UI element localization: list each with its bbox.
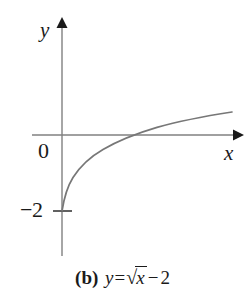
y-tick-label-neg2: −2 xyxy=(20,199,42,221)
figure-caption: (b) y=√x−2 xyxy=(0,266,246,289)
figure-container: y x 0 −2 (b) y=√x−2 xyxy=(0,0,246,298)
caption-label: (b) xyxy=(75,267,98,288)
caption-equals-sign: = xyxy=(114,267,127,288)
caption-minus-sign: − xyxy=(147,267,160,288)
origin-label: 0 xyxy=(38,140,49,162)
sqrt-curve xyxy=(62,112,232,211)
x-axis-label: x xyxy=(224,143,233,164)
radical-expression: √x xyxy=(126,266,146,289)
x-axis-arrow-icon xyxy=(233,130,244,141)
y-axis-arrow-icon xyxy=(57,17,68,28)
radicand-variable: x xyxy=(135,267,146,289)
coordinate-plot xyxy=(0,0,246,268)
y-axis-label: y xyxy=(40,20,49,41)
caption-lhs-variable: y xyxy=(105,267,113,288)
caption-constant: 2 xyxy=(159,267,171,288)
